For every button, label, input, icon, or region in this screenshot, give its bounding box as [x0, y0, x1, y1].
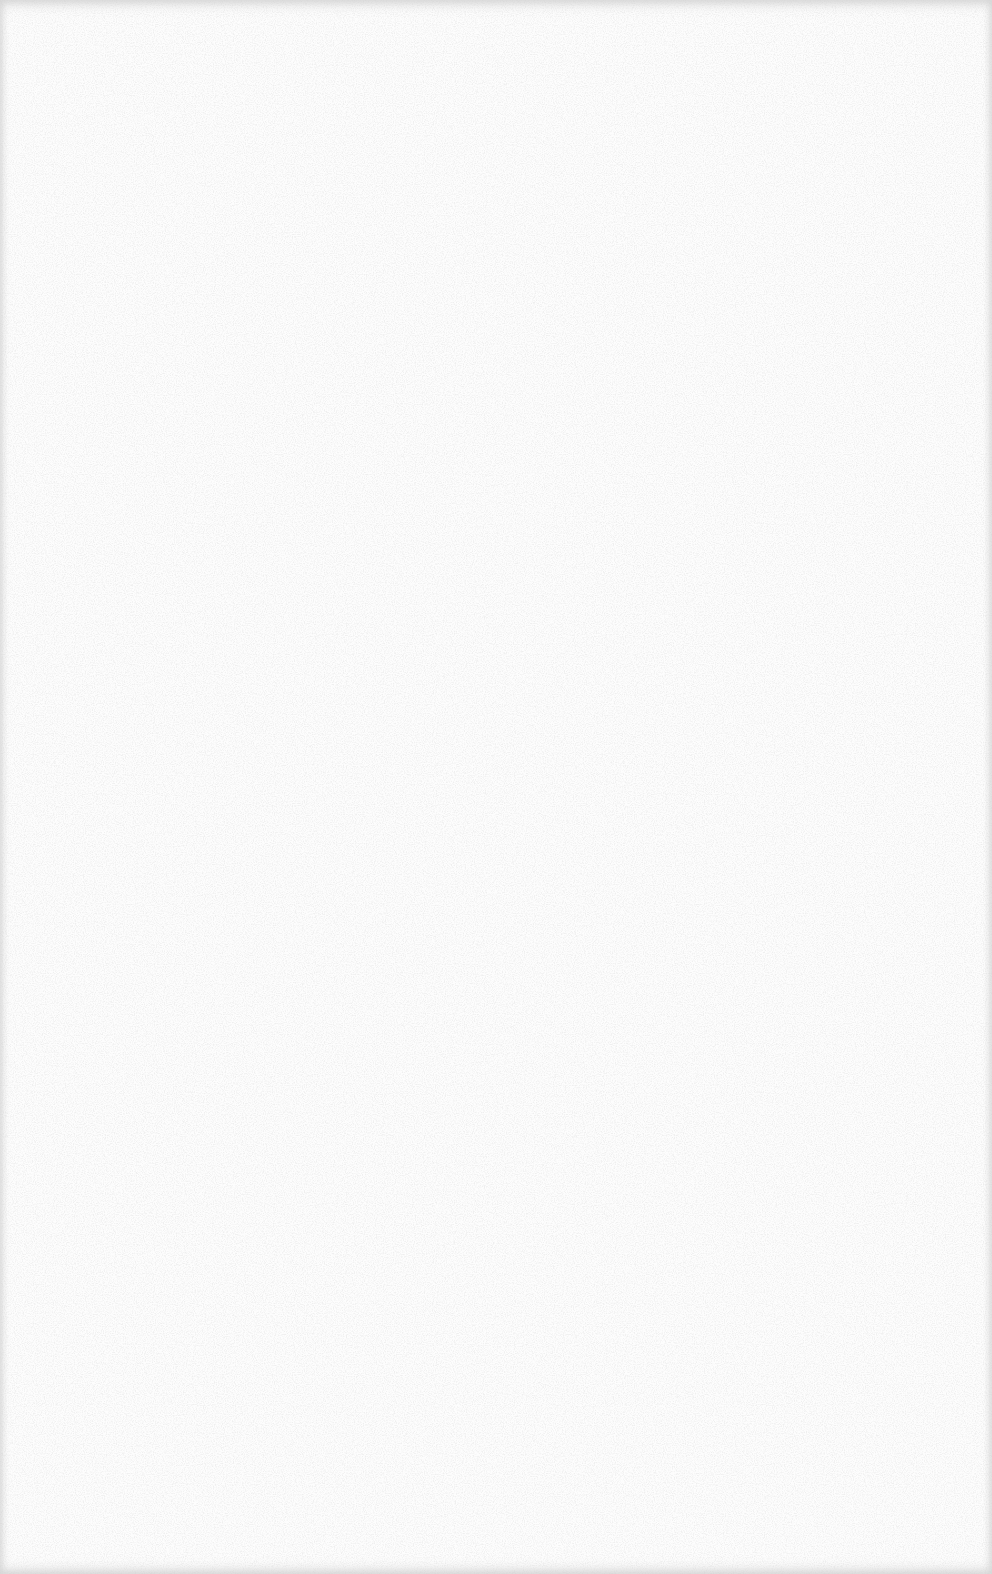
blank-page	[0, 0, 992, 1574]
scan-edge-shadow	[0, 0, 992, 1574]
paper-grain-texture	[0, 0, 992, 1574]
